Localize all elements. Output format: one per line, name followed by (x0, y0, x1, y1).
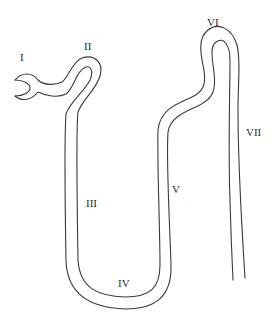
label-II: II (84, 41, 91, 52)
label-I: I (20, 52, 24, 63)
capsule-cup (15, 80, 30, 96)
nephron-diagram (0, 0, 274, 320)
label-IV: IV (118, 278, 130, 289)
label-VI: VI (207, 17, 219, 28)
tubule-inner-wall (15, 40, 233, 309)
label-VII: VII (246, 127, 261, 138)
label-V: V (172, 184, 180, 195)
tubule-outer-wall (15, 26, 245, 297)
label-III: III (86, 198, 97, 209)
